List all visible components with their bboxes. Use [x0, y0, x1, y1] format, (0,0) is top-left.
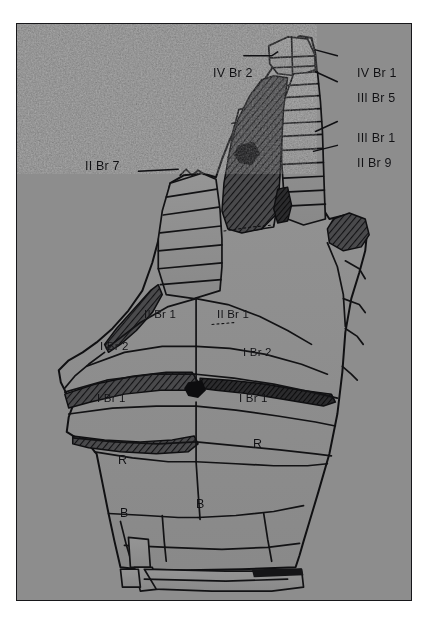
label-iv-br-2: IV Br 2	[213, 67, 253, 79]
label-radial-right: R	[253, 438, 262, 450]
label-ii-br-1-left: II Br 1	[144, 308, 176, 320]
label-layer: IV Br 2 IV Br 1 III Br 5 III Br 1 II Br …	[17, 24, 411, 600]
label-ii-br-1-right: II Br 1	[217, 308, 249, 320]
label-iii-br-1: III Br 1	[357, 132, 395, 144]
label-i-br-1-left: I Br 1	[97, 392, 126, 404]
label-iv-br-1: IV Br 1	[357, 67, 397, 79]
label-iii-br-5: III Br 5	[357, 92, 395, 104]
figure-root: IV Br 2 IV Br 1 III Br 5 III Br 1 II Br …	[0, 0, 421, 628]
label-i-br-2-left: I Br 2	[100, 340, 129, 352]
label-basal-right: B	[196, 498, 205, 510]
label-ii-br-9: II Br 9	[357, 157, 392, 169]
plate-frame: IV Br 2 IV Br 1 III Br 5 III Br 1 II Br …	[16, 23, 412, 601]
label-i-br-1-right: I Br 1	[239, 392, 268, 404]
label-basal-left: B	[120, 507, 129, 519]
label-radial-left: R	[118, 454, 127, 466]
label-i-br-2-right: I Br 2	[243, 346, 272, 358]
label-ii-br-7: II Br 7	[85, 160, 120, 172]
